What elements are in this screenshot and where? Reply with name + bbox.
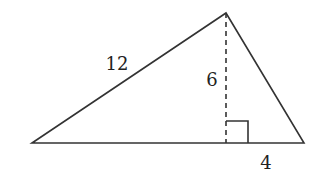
triangle-diagram [0, 0, 309, 177]
side-length-label-12: 12 [106, 55, 129, 73]
triangle-outline [32, 13, 304, 143]
base-segment-label-4: 4 [260, 154, 271, 172]
height-label-6: 6 [206, 71, 217, 89]
right-angle-marker [226, 121, 248, 143]
